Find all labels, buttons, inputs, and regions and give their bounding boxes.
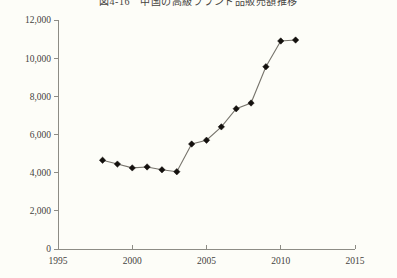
x-axis-tick-label: 1995 xyxy=(49,256,68,266)
y-axis-tick-label: 4,000 xyxy=(30,168,52,178)
series-line xyxy=(103,40,296,172)
x-axis-tick-label: 2005 xyxy=(197,256,216,266)
chart-figure: 図4-16 中国の高級ブランド品販売額推移 02,0004,0006,0008,… xyxy=(0,0,397,278)
y-axis-tick-label: 2,000 xyxy=(30,206,52,216)
data-point-marker xyxy=(292,37,298,43)
data-series xyxy=(99,37,298,175)
y-axis: 02,0004,0006,0008,00010,00012,000 xyxy=(25,15,59,254)
x-axis-tick-label: 2015 xyxy=(346,256,365,266)
data-point-marker xyxy=(114,161,120,167)
data-point-marker xyxy=(99,157,105,163)
data-point-marker xyxy=(263,64,269,70)
y-axis-tick-label: 8,000 xyxy=(30,92,52,102)
x-axis: 19952000200520102015 xyxy=(49,245,365,266)
y-axis-tick-label: 12,000 xyxy=(25,15,51,25)
x-axis-tick-label: 2000 xyxy=(123,256,142,266)
data-point-marker xyxy=(278,38,284,44)
line-chart-plot: 02,0004,0006,0008,00010,00012,000 199520… xyxy=(0,0,397,278)
data-point-marker xyxy=(188,141,194,147)
y-axis-tick-label: 6,000 xyxy=(30,130,52,140)
y-axis-tick-label: 10,000 xyxy=(25,54,51,64)
y-axis-tick-label: 0 xyxy=(46,244,51,254)
data-point-marker xyxy=(174,169,180,175)
data-point-marker xyxy=(144,164,150,170)
x-axis-tick-label: 2010 xyxy=(271,256,290,266)
data-point-marker xyxy=(129,165,135,171)
data-point-marker xyxy=(248,100,254,106)
data-point-marker xyxy=(159,167,165,173)
